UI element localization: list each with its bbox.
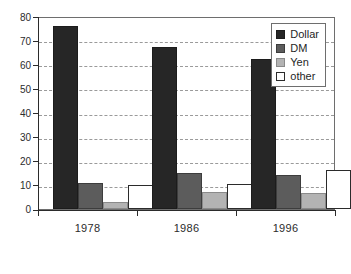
bar-1978-yen [103, 202, 128, 209]
x-tick-start [38, 210, 39, 216]
legend-item-dollar: Dollar [276, 27, 319, 41]
y-axis-label-0: 0 [0, 205, 31, 215]
legend-item-dm: DM [276, 41, 319, 55]
legend-swatch-yen-icon [276, 58, 285, 67]
legend-label-yen: Yen [290, 56, 309, 68]
bar-1996-dm [276, 175, 301, 209]
plot-area: Dollar DM Yen other [38, 17, 335, 210]
bar-1986-dollar [152, 47, 177, 209]
x-tick-2 [236, 210, 237, 216]
y-axis-label-30: 30 [0, 133, 31, 143]
bar-1996-other [326, 170, 351, 209]
gridline-20 [39, 163, 334, 164]
x-tick-1 [137, 210, 138, 216]
y-axis-label-60: 60 [0, 61, 31, 71]
legend-label-other: other [290, 70, 315, 82]
bar-1996-yen [301, 193, 326, 209]
x-tick-end [335, 210, 336, 216]
x-axis-label-1978: 1978 [38, 222, 137, 234]
legend-swatch-dollar-icon [276, 30, 285, 39]
y-axis-label-40: 40 [0, 109, 31, 119]
y-axis-line [38, 17, 39, 211]
bar-1986-yen [202, 192, 227, 209]
gridline-50 [39, 90, 334, 91]
gridline-40 [39, 115, 334, 116]
y-axis-label-70: 70 [0, 37, 31, 47]
y-axis-label-20: 20 [0, 157, 31, 167]
x-axis-label-1996: 1996 [236, 222, 335, 234]
bar-1978-other [128, 185, 153, 209]
bar-1978-dm [78, 183, 103, 210]
gridline-30 [39, 139, 334, 140]
legend-swatch-dm-icon [276, 44, 285, 53]
bar-1986-dm [177, 173, 202, 209]
x-axis-label-1986: 1986 [137, 222, 236, 234]
bar-1986-other [227, 184, 252, 209]
legend: Dollar DM Yen other [271, 23, 326, 87]
y-axis-label-50: 50 [0, 85, 31, 95]
legend-item-yen: Yen [276, 55, 319, 69]
y-axis-label-80: 80 [0, 13, 31, 23]
legend-label-dollar: Dollar [290, 28, 319, 40]
legend-label-dm: DM [290, 42, 307, 54]
x-axis-line [38, 210, 336, 211]
legend-item-other: other [276, 69, 319, 83]
bar-1978-dollar [53, 26, 78, 209]
y-axis-label-10: 10 [0, 181, 31, 191]
legend-swatch-other-icon [276, 72, 285, 81]
